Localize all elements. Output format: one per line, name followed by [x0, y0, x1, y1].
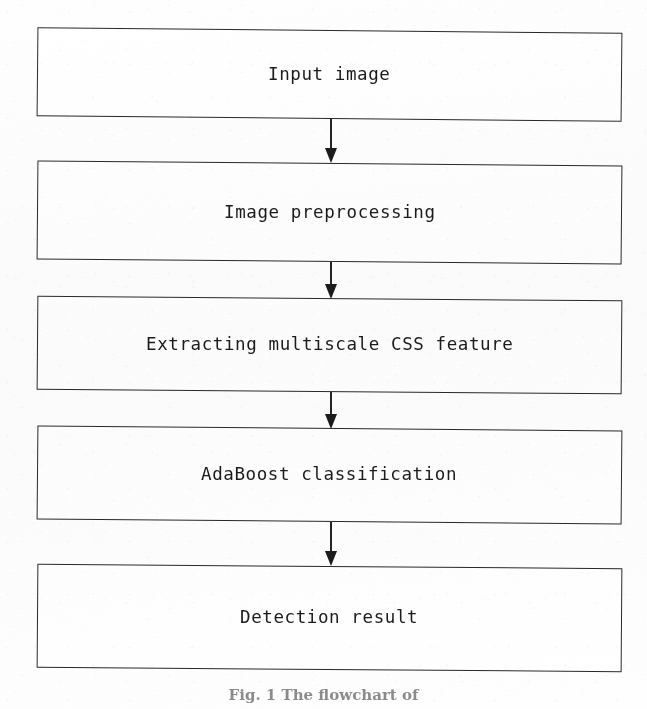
- figure-caption: Fig. 1 The flowchart of: [0, 686, 647, 704]
- flowchart-node-image-preprocessing: Image preprocessing: [37, 160, 623, 264]
- flowchart-node-label: Image preprocessing: [224, 203, 436, 222]
- arrow-head-down-icon: [325, 148, 337, 163]
- flowchart-arrow-adaboost-to-result: [324, 522, 338, 566]
- flowchart-node-label: Detection result: [240, 608, 418, 627]
- arrow-head-down-icon: [325, 284, 337, 299]
- flowchart-node-adaboost: AdaBoost classification: [37, 425, 623, 524]
- flowchart-node-label: Input image: [268, 65, 391, 84]
- flowchart-arrow-extract-to-adaboost: [324, 392, 338, 428]
- flowchart-node-label: Extracting multiscale CSS feature: [146, 335, 513, 354]
- flowchart-node-input-image: Input image: [37, 27, 623, 122]
- flowchart-arrow-input-to-preprocessing: [324, 119, 338, 163]
- flowchart-node-extract-css: Extracting multiscale CSS feature: [37, 296, 623, 395]
- flowchart-node-label: AdaBoost classification: [201, 465, 457, 484]
- arrow-head-down-icon: [325, 414, 337, 429]
- arrow-shaft: [330, 262, 332, 285]
- arrow-shaft: [330, 392, 332, 415]
- arrow-shaft: [330, 119, 332, 149]
- flowchart-arrow-preprocessing-to-extract: [324, 262, 338, 298]
- flowchart-figure: Input image Image preprocessing Extracti…: [0, 0, 647, 709]
- arrow-shaft: [330, 522, 332, 552]
- flowchart-node-detection-result: Detection result: [37, 564, 623, 672]
- arrow-head-down-icon: [325, 551, 337, 566]
